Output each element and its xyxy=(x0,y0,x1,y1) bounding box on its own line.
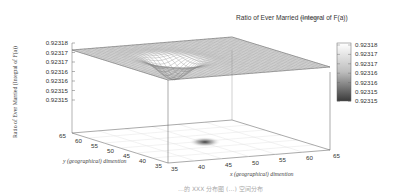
svg-text:0.92318: 0.92318 xyxy=(355,41,378,48)
surface-plot: Ratio of Ever Married (Integral of F(a))… xyxy=(0,0,394,193)
legend: Ratio of Ever Married (Integral of F(a)) xyxy=(236,14,348,22)
svg-text:45: 45 xyxy=(225,161,232,168)
figure-caption: …的 XXX 分布图 (…) 空间分布 xyxy=(178,185,263,193)
svg-text:0.92316: 0.92316 xyxy=(355,69,378,76)
svg-text:35: 35 xyxy=(155,162,162,169)
svg-text:65: 65 xyxy=(59,132,66,139)
svg-text:35: 35 xyxy=(171,165,178,172)
svg-text:0.92317: 0.92317 xyxy=(46,58,69,65)
svg-text:60: 60 xyxy=(75,137,82,144)
floor-heatmap-spot xyxy=(189,137,221,147)
colorbox: 0.923180.923170.923170.923160.923160.923… xyxy=(337,41,378,104)
chart-title: Ratio of Ever Married (Integral of F(a)) xyxy=(236,14,348,22)
svg-text:0.92318: 0.92318 xyxy=(46,39,69,46)
svg-text:0.92317: 0.92317 xyxy=(355,60,378,67)
svg-text:0.92317: 0.92317 xyxy=(46,49,69,56)
surface-mesh xyxy=(72,37,330,80)
svg-text:65: 65 xyxy=(333,152,340,159)
svg-text:0.92315: 0.92315 xyxy=(355,88,378,95)
svg-text:40: 40 xyxy=(198,163,205,170)
svg-text:50: 50 xyxy=(252,159,259,166)
svg-text:0.92315: 0.92315 xyxy=(46,96,69,103)
x-axis-ticks: 35404550556065 xyxy=(171,152,340,172)
y-axis-label: y (geographical) dimention xyxy=(62,158,127,165)
z-axis-label: Ratio of Ever Married (Integral of F(a)) xyxy=(12,46,19,138)
svg-text:60: 60 xyxy=(306,154,313,161)
svg-text:0.92316: 0.92316 xyxy=(46,68,69,75)
svg-text:0.92316: 0.92316 xyxy=(355,79,378,86)
svg-text:0.92315: 0.92315 xyxy=(355,97,378,104)
svg-text:0.92315: 0.92315 xyxy=(46,87,69,94)
x-axis-label: x (geographical) dimention xyxy=(229,171,294,178)
svg-text:55: 55 xyxy=(91,142,98,149)
svg-text:0.92317: 0.92317 xyxy=(355,50,378,57)
z-axis: 0.923180.923170.923170.923160.923160.923… xyxy=(46,39,75,103)
svg-text:50: 50 xyxy=(107,147,114,154)
svg-text:0.92316: 0.92316 xyxy=(46,77,69,84)
svg-text:55: 55 xyxy=(279,156,286,163)
svg-text:40: 40 xyxy=(139,157,146,164)
